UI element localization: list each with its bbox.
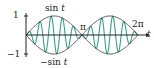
x-axis-label-t: t xyxy=(147,30,151,39)
annotation-neg-sin-t: −sin t xyxy=(40,58,67,67)
x-tick-label-2pi: 2π xyxy=(132,20,144,29)
x-tick-label-pi: π xyxy=(80,23,86,32)
annotation-sin-t: sin t xyxy=(45,4,65,13)
annotation-neg-sin-text: −sin xyxy=(40,57,61,67)
y-tick-label-neg1: −1 xyxy=(7,50,20,59)
y-tick-label-1: 1 xyxy=(13,11,19,20)
annotation-sin-text: sin xyxy=(45,3,58,13)
annotation-sin-var: t xyxy=(61,3,65,13)
chart-canvas xyxy=(0,0,154,68)
annotation-neg-sin-var: t xyxy=(64,57,68,67)
